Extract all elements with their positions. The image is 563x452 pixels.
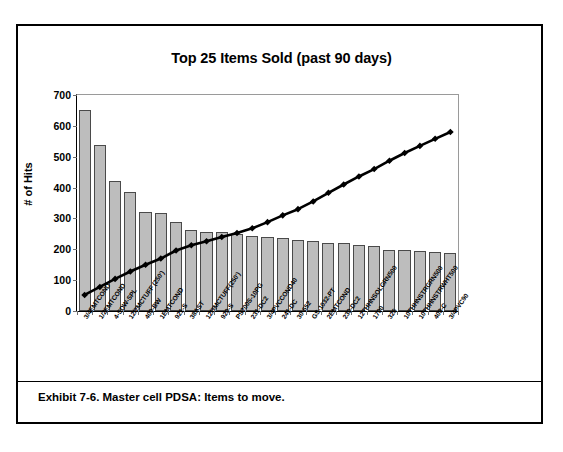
- y-axis-tick-mark: [73, 126, 77, 127]
- bar-slot: [306, 95, 321, 311]
- exhibit-caption: Exhibit 7-6. Master cell PDSA: Items to …: [38, 391, 285, 403]
- bar-slot: [351, 95, 366, 311]
- bar-slot: [412, 95, 427, 311]
- exhibit-figure: Top 25 Items Sold (past 90 days) # of Hi…: [0, 0, 563, 452]
- caption-divider: [18, 381, 541, 382]
- y-axis-tick-mark: [73, 95, 77, 96]
- bar-slot: [336, 95, 351, 311]
- bar-slot: [92, 95, 107, 311]
- bar: [398, 250, 410, 311]
- x-axis-tick-mark: [77, 311, 78, 315]
- bar-slot: [366, 95, 381, 311]
- y-axis-label: # of Hits: [22, 144, 34, 224]
- bar-slot: [245, 95, 260, 311]
- chart-title: Top 25 Items Sold (past 90 days): [0, 50, 563, 66]
- bar-slot: [260, 95, 275, 311]
- y-axis-tick-mark: [73, 280, 77, 281]
- bar-slot: [107, 95, 122, 311]
- bar-slot: [321, 95, 336, 311]
- y-axis-tick-mark: [73, 249, 77, 250]
- bar-slot: [138, 95, 153, 311]
- bar-slot: [184, 95, 199, 311]
- bar-slot: [397, 95, 412, 311]
- bar-slot: [77, 95, 92, 311]
- bar-slot: [214, 95, 229, 311]
- bar: [185, 230, 197, 311]
- bar-slot: [168, 95, 183, 311]
- plot-area: 0100200300400500600700: [76, 94, 459, 312]
- y-axis-tick-mark: [73, 157, 77, 158]
- y-axis-tick-mark: [73, 218, 77, 219]
- bar-slot: [199, 95, 214, 311]
- bar: [200, 232, 212, 311]
- bar-series: [77, 95, 458, 311]
- bar-slot: [275, 95, 290, 311]
- bar-slot: [123, 95, 138, 311]
- y-axis-tick-mark: [73, 188, 77, 189]
- bar: [79, 110, 91, 311]
